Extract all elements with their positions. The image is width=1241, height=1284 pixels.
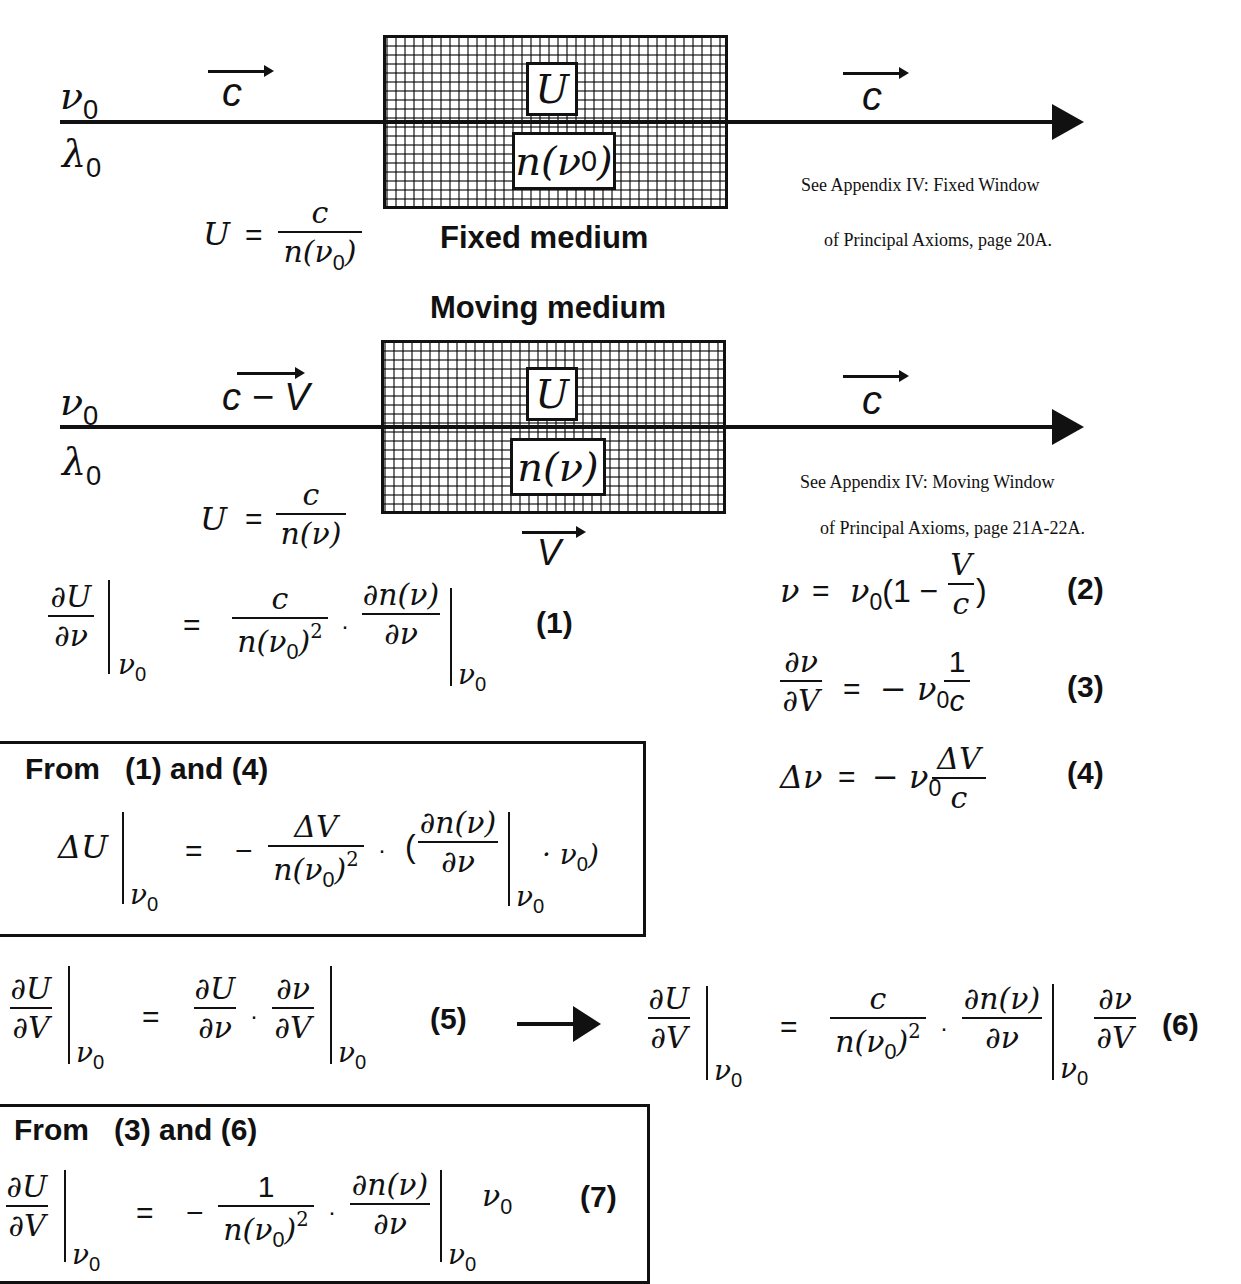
eq4-rhs: − ν0 bbox=[872, 758, 941, 802]
equals-sign: = bbox=[780, 1010, 798, 1044]
eq3-rhs: − ν0 bbox=[880, 670, 949, 714]
implies-arrow-shaft bbox=[517, 1022, 577, 1026]
eq5-term1: ∂U∂ν bbox=[194, 972, 236, 1044]
eq2-fraction: Vc bbox=[948, 548, 974, 620]
lambda0-label-moving: λ0 bbox=[62, 440, 101, 492]
fraction-numerator: c bbox=[303, 478, 320, 511]
arrowhead-icon bbox=[1052, 409, 1084, 445]
box1-fraction2: ∂n(ν)∂ν bbox=[418, 806, 498, 878]
eval-subscript: ν0 bbox=[118, 648, 146, 686]
c-velocity-out-fixed: c bbox=[862, 74, 882, 119]
evaluation-bar bbox=[330, 966, 332, 1064]
equals-sign: = bbox=[843, 672, 861, 706]
equals-sign: = bbox=[245, 218, 263, 252]
eq5-term2: ∂ν∂V bbox=[272, 972, 314, 1044]
vector-arrow-icon bbox=[237, 372, 297, 375]
box1-fraction1: ΔV n(ν0)2 bbox=[268, 810, 364, 892]
V-velocity-label: V bbox=[537, 532, 561, 574]
evaluation-bar bbox=[706, 986, 708, 1080]
eq6-term2: ∂n(ν)∂ν bbox=[962, 982, 1042, 1054]
U-box-fixed: U bbox=[526, 62, 578, 116]
eq2-lhs: ν bbox=[780, 572, 799, 610]
eval-subscript: ν0 bbox=[458, 658, 486, 696]
n-box-moving: n(ν) bbox=[510, 438, 606, 496]
box2-lhs: ∂U∂V bbox=[6, 1170, 48, 1242]
eval-subscript: ν0 bbox=[448, 1238, 476, 1276]
U-box-moving: U bbox=[526, 367, 578, 421]
equals-sign: = bbox=[185, 834, 203, 868]
eq1-term1: c n(ν0)2 bbox=[232, 582, 328, 664]
eval-subscript: ν0 bbox=[76, 1036, 104, 1074]
equals-sign: = bbox=[183, 608, 201, 642]
evaluation-bar bbox=[1052, 984, 1054, 1080]
equation-number: (7) bbox=[580, 1180, 617, 1214]
fixed-medium-title: Fixed medium bbox=[440, 220, 648, 256]
evaluation-bar bbox=[508, 812, 510, 906]
minus-sign: − bbox=[235, 834, 253, 868]
eval-subscript: ν0 bbox=[338, 1036, 366, 1074]
equation-number: (2) bbox=[1067, 572, 1104, 606]
equation-number: (1) bbox=[536, 606, 573, 640]
fraction-denominator: n(ν0) bbox=[284, 235, 357, 274]
eval-subscript: ν0 bbox=[714, 1054, 742, 1092]
moving-medium-title: Moving medium bbox=[430, 290, 666, 326]
close-paren: ) bbox=[976, 572, 987, 609]
U-eq-lhs-moving: U bbox=[200, 500, 227, 538]
equals-sign: = bbox=[136, 1196, 154, 1230]
evaluation-bar bbox=[122, 812, 124, 904]
open-paren: ( bbox=[405, 828, 416, 865]
ray-through-medium bbox=[383, 120, 728, 124]
equation-number: (3) bbox=[1067, 670, 1104, 704]
U-eq-fraction-fixed: c n(ν0) bbox=[278, 196, 362, 274]
box1-heading: From (1) and (4) bbox=[25, 752, 268, 786]
evaluation-bar bbox=[108, 580, 110, 674]
eq1-lhs: ∂U∂ν bbox=[48, 580, 94, 652]
eq1-term2: ∂n(ν)∂ν bbox=[362, 578, 440, 650]
evaluation-bar bbox=[68, 966, 70, 1064]
c-velocity-label-fixed: c bbox=[222, 70, 242, 115]
box2-fraction1: 1 n(ν0)2 bbox=[218, 1170, 314, 1252]
equation-number: (4) bbox=[1067, 756, 1104, 790]
evaluation-bar bbox=[64, 1170, 66, 1262]
c-velocity-out-moving: c bbox=[862, 378, 882, 423]
eq2-rhs: ν0(1 − bbox=[850, 572, 938, 616]
c-minus-v-label: c − V bbox=[222, 376, 310, 419]
eval-subscript: ν0 bbox=[130, 878, 158, 916]
box1-tail: · ν0) bbox=[542, 838, 599, 876]
appendix-note-moving-line2: of Principal Axioms, page 21A-22A. bbox=[820, 518, 1085, 539]
equation-number: (6) bbox=[1162, 1008, 1199, 1042]
box2-tail: ν0 bbox=[482, 1178, 512, 1220]
dot-operator: · bbox=[328, 1198, 336, 1226]
n-box-fixed: n(ν0) bbox=[512, 132, 616, 190]
nu0-label-fixed: ν0 bbox=[60, 74, 98, 126]
nu0-label-moving: ν0 bbox=[60, 380, 98, 432]
ray-through-medium bbox=[381, 425, 726, 429]
fraction-numerator: c bbox=[312, 196, 329, 229]
box2-fraction2: ∂n(ν)∂ν bbox=[350, 1168, 430, 1240]
box1-lhs: ΔU bbox=[58, 828, 108, 866]
dot-operator: · bbox=[250, 1002, 258, 1030]
eval-subscript: ν0 bbox=[516, 880, 544, 918]
dot-operator: · bbox=[940, 1014, 948, 1042]
appendix-note-moving-line1: See Appendix IV: Moving Window bbox=[800, 472, 1055, 493]
equation-number: (5) bbox=[430, 1002, 467, 1036]
dot-operator: · bbox=[378, 836, 386, 864]
eval-subscript: ν0 bbox=[72, 1238, 100, 1276]
appendix-note-fixed-line2: of Principal Axioms, page 20A. bbox=[824, 230, 1052, 251]
U-eq-fraction-moving: c n(ν) bbox=[276, 478, 346, 550]
eq5-lhs: ∂U∂V bbox=[10, 972, 52, 1044]
box2-heading: From (3) and (6) bbox=[14, 1113, 257, 1147]
eq6-term3: ∂ν∂V bbox=[1094, 982, 1136, 1054]
implies-arrow-icon bbox=[573, 1006, 601, 1042]
evaluation-bar bbox=[440, 1170, 442, 1262]
arrowhead-icon bbox=[1052, 104, 1084, 140]
equals-sign: = bbox=[142, 1000, 160, 1034]
fraction-denominator: n(ν) bbox=[281, 517, 342, 550]
eq3-lhs: ∂ν∂V bbox=[780, 645, 822, 717]
eq6-term1: c n(ν0)2 bbox=[830, 982, 926, 1064]
eq6-lhs: ∂U∂V bbox=[648, 982, 690, 1054]
eq3-fraction: 1c bbox=[944, 645, 970, 717]
evaluation-bar bbox=[450, 588, 452, 686]
lambda0-label-fixed: λ0 bbox=[62, 132, 101, 184]
equals-sign: = bbox=[245, 502, 263, 536]
